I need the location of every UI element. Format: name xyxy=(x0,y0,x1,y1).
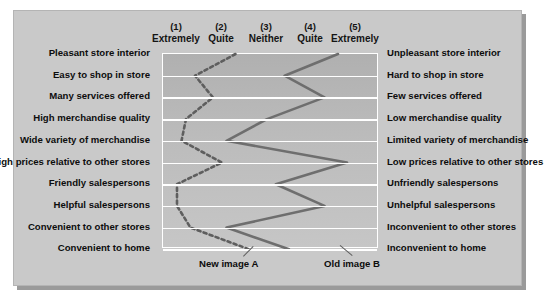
attribute-label-left: Friendly salespersons xyxy=(49,177,150,189)
attribute-label-right: Limited variety of merchandise xyxy=(387,134,528,146)
attribute-label-right: Unpleasant store interior xyxy=(387,47,501,59)
attribute-label-left: Helpful salespersons xyxy=(53,199,150,211)
attribute-label-right: Inconvenient to other stores xyxy=(387,221,516,233)
attribute-label-right: Few services offered xyxy=(387,90,482,102)
legend-label-new-image-a: New image A xyxy=(199,258,258,269)
scale-point-5: (5)Extremely xyxy=(312,22,398,44)
attribute-label-right: Low merchandise quality xyxy=(387,112,502,124)
attribute-label-left: Easy to shop in store xyxy=(53,69,150,81)
scale-number: (5) xyxy=(312,22,398,33)
legend-label-old-image-b: Old image B xyxy=(324,258,380,269)
attribute-label-left: Pleasant store interior xyxy=(49,47,150,59)
attribute-label-left: Convenient to other stores xyxy=(28,221,150,233)
gridline xyxy=(163,184,377,186)
attribute-label-left: Wide variety of merchandise xyxy=(20,134,150,146)
attribute-label-right: Low prices relative to other stores xyxy=(387,156,543,168)
gridline xyxy=(163,163,377,165)
attribute-label-right: Inconvenient to home xyxy=(387,242,486,254)
attribute-label-right: Unhelpful salespersons xyxy=(387,199,495,211)
series-lines xyxy=(163,54,379,249)
gridline xyxy=(163,76,377,78)
plot-area xyxy=(162,53,378,248)
gridline xyxy=(163,97,377,99)
gridline xyxy=(163,206,377,208)
series-line-old-image-b xyxy=(227,54,348,249)
attribute-label-left: Many services offered xyxy=(49,90,150,102)
attribute-label-right: Hard to shop in store xyxy=(387,69,483,81)
attribute-label-left: High prices relative to other stores xyxy=(0,156,150,168)
gridline xyxy=(163,141,377,143)
gridline xyxy=(163,119,377,121)
scale-word: Extremely xyxy=(312,33,398,44)
attribute-label-left: High merchandise quality xyxy=(33,112,150,124)
attribute-label-right: Unfriendly salespersons xyxy=(387,177,498,189)
gridline xyxy=(163,228,377,230)
attribute-label-left: Convenient to home xyxy=(58,242,150,254)
series-line-new-image-a xyxy=(177,54,249,249)
